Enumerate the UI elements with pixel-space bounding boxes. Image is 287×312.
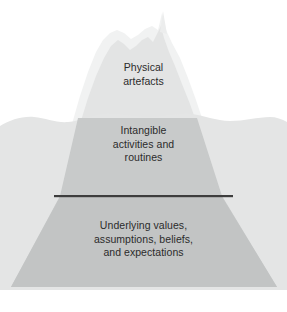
divider-line <box>54 195 233 197</box>
iceberg-illustration <box>0 0 287 312</box>
iceberg-diagram: Physical artefacts Intangible activities… <box>0 0 287 312</box>
